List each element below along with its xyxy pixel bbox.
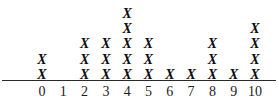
dot-mark: X <box>123 52 132 67</box>
axis-tick-label-8: 8 <box>201 83 223 101</box>
dot-stack-5: XXX <box>138 36 160 82</box>
dot-mark: X <box>80 52 89 67</box>
axis-tick-label-5: 5 <box>138 83 160 101</box>
dot-mark: X <box>101 36 110 51</box>
dot-mark: X <box>250 36 259 51</box>
dot-mark: X <box>101 52 110 67</box>
dot-mark: X <box>123 21 132 36</box>
axis-tick-label-4: 4 <box>116 83 138 101</box>
dot-mark: X <box>208 52 217 67</box>
axis-tick-label-7: 7 <box>180 83 202 101</box>
axis-tick-label-10: 10 <box>244 83 266 101</box>
horizontal-axis-line <box>2 80 276 81</box>
dot-mark: X <box>144 36 153 51</box>
dot-mark: X <box>250 21 259 36</box>
axis-tick-label-2: 2 <box>74 83 96 101</box>
dot-mark: X <box>123 6 132 21</box>
axis-tick-label-6: 6 <box>159 83 181 101</box>
axis-tick-label-9: 9 <box>223 83 245 101</box>
axis-tick-label-3: 3 <box>95 83 117 101</box>
dot-plot-figure: XXXXXXXXXXXXXXXXXXXXXXXXXX 012345678910 <box>0 0 279 102</box>
dot-stack-3: XXX <box>95 36 117 82</box>
dot-mark: X <box>123 36 132 51</box>
dot-mark: X <box>250 52 259 67</box>
dot-stack-8: XXX <box>201 36 223 82</box>
dot-mark: X <box>144 52 153 67</box>
dot-stack-10: XXXX <box>244 21 266 82</box>
dot-stack-4: XXXXX <box>116 6 138 82</box>
dot-stack-2: XXX <box>74 36 96 82</box>
dot-mark: X <box>208 36 217 51</box>
dot-mark: X <box>80 36 89 51</box>
axis-tick-labels: 012345678910 <box>0 83 279 102</box>
dot-columns-layer: XXXXXXXXXXXXXXXXXXXXXXXXXX <box>0 0 279 82</box>
axis-tick-label-1: 1 <box>52 83 74 101</box>
dot-mark: X <box>37 52 46 67</box>
dot-stack-0: XX <box>31 52 53 82</box>
axis-tick-label-0: 0 <box>31 83 53 101</box>
